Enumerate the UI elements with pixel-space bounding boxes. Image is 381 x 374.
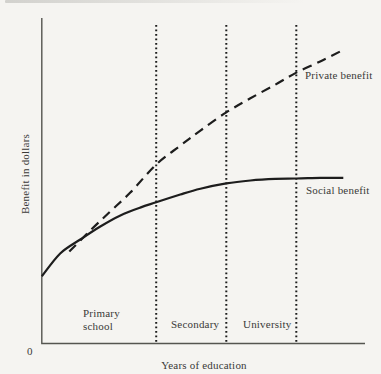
origin-label: 0 [27, 345, 33, 358]
social-benefit-label: Social benefit [306, 184, 370, 197]
x-axis-label: Years of education [114, 359, 294, 372]
social-benefit-curve [42, 178, 344, 276]
y-axis-label: Benefit in dollars [19, 119, 33, 229]
axes [42, 18, 365, 344]
scanned-figure-page: Benefit in dollars Private benefit Socia… [0, 0, 381, 374]
region-label-university: University [243, 318, 291, 331]
region-label-primary-school: Primary school [83, 307, 120, 333]
region-label-secondary: Secondary [171, 318, 219, 331]
private-benefit-label: Private benefit [305, 69, 372, 82]
